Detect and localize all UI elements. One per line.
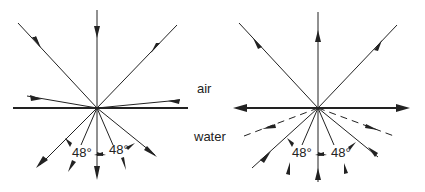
ray-reflected-right-dashed xyxy=(318,108,394,136)
arrow-icon xyxy=(315,168,321,180)
arrow-icon xyxy=(168,99,180,104)
ray-diag-left-in xyxy=(18,23,97,108)
arrow-icon xyxy=(233,104,247,112)
arrow-icon xyxy=(262,124,276,129)
angle-arrow-icon xyxy=(65,138,72,147)
arrow-icon xyxy=(396,104,410,112)
arrow-icon xyxy=(36,156,48,168)
ray-diag-right-out xyxy=(318,25,397,108)
arrow-icon xyxy=(121,157,126,170)
left-diagram xyxy=(13,10,188,180)
arrow-icon xyxy=(253,38,262,49)
arrow-icon xyxy=(286,162,290,175)
arrow-icon xyxy=(365,124,378,130)
ray-under-right xyxy=(318,108,334,145)
angle-label-right-2: 48° xyxy=(331,145,351,160)
arrow-icon xyxy=(260,151,271,163)
air-label: air xyxy=(197,81,212,96)
right-diagram xyxy=(233,12,410,182)
arrow-icon xyxy=(344,163,348,174)
ray-diag-right-in xyxy=(97,25,177,108)
refraction-diagram: 48° 48° air water xyxy=(0,0,425,192)
ray-reflected-left-dashed xyxy=(244,108,318,136)
ray-diag-left-out xyxy=(239,23,318,108)
ray-water-left xyxy=(81,108,97,145)
arrow-icon xyxy=(94,166,100,180)
ray-graze-right-in xyxy=(97,100,180,108)
water-label: water xyxy=(193,129,226,144)
ray-water-right xyxy=(97,108,113,145)
arrow-icon xyxy=(94,26,100,38)
angle-label-left-1: 48° xyxy=(72,145,92,160)
arrow-icon xyxy=(144,146,157,157)
arrow-icon xyxy=(151,43,160,53)
arrow-icon xyxy=(315,30,321,42)
arrow-icon xyxy=(68,160,76,172)
angle-label-right-1: 48° xyxy=(292,145,312,160)
arrow-icon xyxy=(374,40,382,51)
angle-label-left-2: 48° xyxy=(109,142,129,157)
